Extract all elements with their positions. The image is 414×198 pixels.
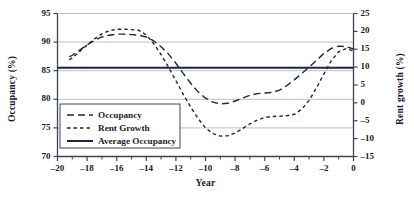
legend-label: Average Occupancy (98, 136, 177, 146)
y-tick-label-left: 75 (25, 122, 51, 132)
y-tick-label-right: 20 (361, 25, 387, 35)
legend-label: Occupancy (98, 110, 142, 120)
x-tick-label: –10 (193, 163, 219, 173)
x-tick-label: –18 (74, 163, 100, 173)
x-tick-label: –8 (222, 163, 248, 173)
y-tick-label-left: 80 (25, 93, 51, 103)
legend-label: Rent Growth (98, 123, 150, 133)
series-line-occupancy (69, 34, 353, 104)
x-tick-label: –14 (133, 163, 159, 173)
y-tick-label-left: 70 (25, 151, 51, 161)
x-tick-label: –12 (163, 163, 189, 173)
y-tick-label-right: –10 (361, 133, 387, 143)
x-tick-label: –20 (45, 163, 71, 173)
x-tick-label: –6 (252, 163, 278, 173)
x-tick-label: –4 (281, 163, 307, 173)
y-tick-label-right: –5 (361, 115, 387, 125)
y-tick-label-left: 85 (25, 65, 51, 75)
y-tick-label-right: 0 (361, 97, 387, 107)
x-tick-label: –16 (104, 163, 130, 173)
x-tick-label: –2 (311, 163, 337, 173)
y-tick-label-right: –15 (361, 151, 387, 161)
y-tick-label-right: 25 (361, 8, 387, 18)
y-tick-label-left: 95 (25, 8, 51, 18)
y-tick-label-right: 10 (361, 61, 387, 71)
y-tick-label-right: 15 (361, 43, 387, 53)
chart-figure: Occupancy (%) Rent growth (%) Year Occup… (0, 0, 414, 198)
y-tick-label-right: 5 (361, 79, 387, 89)
x-tick-label: 0 (341, 163, 367, 173)
y-tick-label-left: 90 (25, 36, 51, 46)
